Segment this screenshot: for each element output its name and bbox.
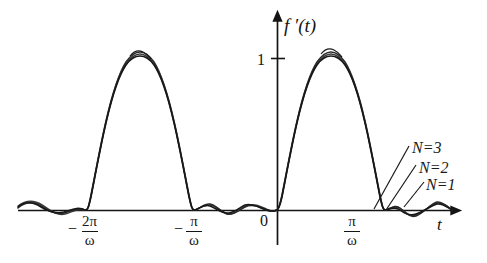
origin-label: 0 [260,213,268,229]
minus-sign: − [68,214,77,238]
y-axis-label: f ′(t) [284,16,316,35]
curve-n1 [18,54,452,216]
curve-n3 [18,56,452,215]
numerator: π [346,214,358,231]
leader-n1 [404,182,424,207]
y-tick-label-1: 1 [257,52,265,68]
x-tick-label-minus-2pi-over-omega: − 2π ω [68,214,99,249]
fraction: π ω [344,214,360,249]
leader-n2 [386,165,416,210]
fraction: 2π ω [80,214,99,249]
fraction: π ω [186,214,202,249]
numerator: 2π [80,214,99,231]
x-axis-label: t [437,216,442,233]
numerator: π [188,214,200,231]
series-annotation-n2: N=2 [419,159,448,177]
denominator: ω [186,231,202,249]
series-annotation-n1: N=1 [426,176,455,194]
curve-n2 [18,52,452,216]
denominator: ω [82,231,98,249]
denominator: ω [344,231,360,249]
minus-sign: − [174,214,183,238]
figure-canvas: f ′(t) 1 0 t − 2π ω − π ω π ω N=3 N=2 N=… [0,0,487,263]
series-annotation-n3: N=3 [412,139,441,157]
leader-n3 [374,146,409,209]
crest-ripples [130,49,342,59]
x-tick-label-minus-pi-over-omega: − π ω [174,214,202,249]
x-tick-label-pi-over-omega: π ω [344,214,360,249]
